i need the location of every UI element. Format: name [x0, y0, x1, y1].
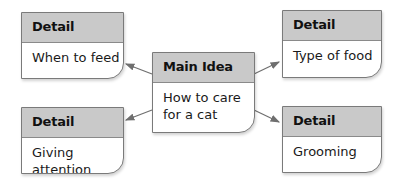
arrow-to-bottom-right — [254, 110, 279, 122]
detail-text: Giving attention — [22, 138, 123, 174]
main-idea-text: How to care for a cat — [153, 83, 254, 123]
detail-box-top-left: Detail When to feed — [21, 12, 124, 79]
detail-header: Detail — [283, 11, 381, 41]
detail-text: Type of food — [283, 41, 381, 64]
detail-text: Grooming — [283, 137, 381, 160]
detail-text: When to feed — [22, 43, 123, 66]
main-idea-box: Main Idea How to care for a cat — [152, 52, 255, 133]
detail-header: Detail — [283, 107, 381, 137]
detail-box-bottom-right: Detail Grooming — [282, 106, 382, 173]
detail-header: Detail — [22, 108, 123, 138]
detail-header: Detail — [22, 13, 123, 43]
arrow-to-bottom-left — [126, 110, 152, 120]
main-idea-text-line2: for a cat — [163, 106, 254, 123]
arrow-to-top-right — [254, 62, 279, 74]
detail-box-top-right: Detail Type of food — [282, 10, 382, 78]
main-idea-text-line1: How to care — [163, 89, 254, 106]
arrow-to-top-left — [126, 64, 152, 74]
main-idea-header: Main Idea — [153, 53, 254, 83]
detail-box-bottom-left: Detail Giving attention — [21, 107, 124, 174]
